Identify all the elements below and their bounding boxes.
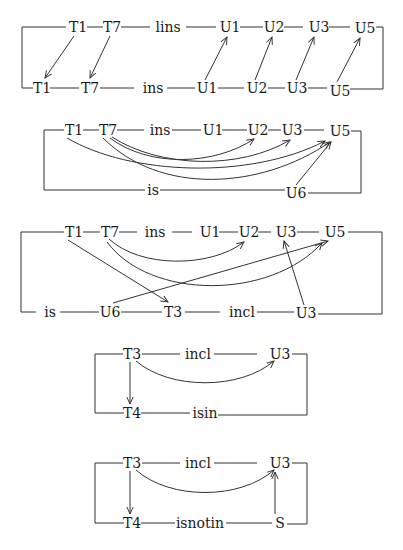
node-T3: T3 [164,304,182,320]
arrow-T1-T3 [68,240,168,302]
arrow-T3-U3 [136,470,274,493]
node-T3: T3 [123,455,141,471]
arrow-T1-down [45,36,74,78]
diagram-5: T3 incl U3 T4 isnotin S [95,455,307,531]
node-U3: U3 [276,224,297,240]
arrow-U2-up [255,37,272,80]
node-is: is [44,304,56,320]
node-U2: U2 [248,122,269,138]
node-U1: U1 [203,122,224,138]
node-isnotin: isnotin [176,515,224,531]
node-U3: U3 [309,19,330,35]
arrow-T3-U3 [136,361,274,383]
node-incl: incl [185,346,211,362]
diagram-2: T1 T7 ins U1 U2 U3 U5 is U6 [44,122,361,201]
node-lins: lins [155,19,180,35]
node-U1: U1 [220,19,241,35]
arrow-T7-U5 [103,138,330,179]
node-S: S [275,515,285,531]
node-ins: ins [145,224,166,240]
node-U2-bottom: U2 [247,80,268,96]
arrow-T7-U2 [110,138,254,160]
node-T7: T7 [103,19,121,35]
node-T3: T3 [123,346,141,362]
arrow-U3-up [296,37,314,80]
arrow-T7-U3 [112,137,290,161]
node-U5: U5 [355,20,376,36]
node-U5: U5 [330,123,351,139]
node-U3: U3 [270,346,291,362]
arrow-T7-U2 [109,239,244,261]
node-incl: incl [229,304,255,320]
node-isin: isin [192,405,217,421]
node-U3: U3 [282,122,303,138]
diagram-4: T3 incl U3 T4 isin [95,346,307,421]
arrow-U6-U5 [296,142,331,185]
diagram-1: T1 T7 lins U1 U2 U3 U5 T1 T7 ins U1 U2 U… [22,19,383,99]
node-ins: ins [143,80,164,96]
node-U3: U3 [270,455,291,471]
node-T7: T7 [99,122,117,138]
node-U2: U2 [239,224,260,240]
arrow-U1-up [205,37,227,80]
arrow-T7-down [90,36,110,78]
node-U5-bottom: U5 [330,83,351,99]
node-U3-bottom: U3 [296,305,317,321]
node-T1-bottom: T1 [33,80,51,96]
node-T4: T4 [123,405,141,421]
node-U3-bottom: U3 [287,80,308,96]
node-U6: U6 [286,185,307,201]
node-U5: U5 [325,224,346,240]
diagram-canvas: T1 T7 lins U1 U2 U3 U5 T1 T7 ins U1 U2 U… [0,0,403,550]
node-U1: U1 [200,224,221,240]
node-T1: T1 [69,19,87,35]
node-T7: T7 [101,224,119,240]
node-U2: U2 [264,19,285,35]
node-ins: ins [150,122,171,138]
arrow-U5-up [337,38,360,82]
node-incl: incl [185,455,211,471]
node-T1: T1 [65,224,83,240]
node-T7-bottom: T7 [81,80,99,96]
node-U6: U6 [100,304,121,320]
node-U1-bottom: U1 [197,80,218,96]
arrow-T7-U5 [107,242,322,286]
node-is: is [147,182,159,198]
node-T1: T1 [65,122,83,138]
node-T4: T4 [123,515,141,531]
diagram-3: T1 T7 ins U1 U2 U3 U5 is U6 T3 incl U3 [21,224,382,321]
